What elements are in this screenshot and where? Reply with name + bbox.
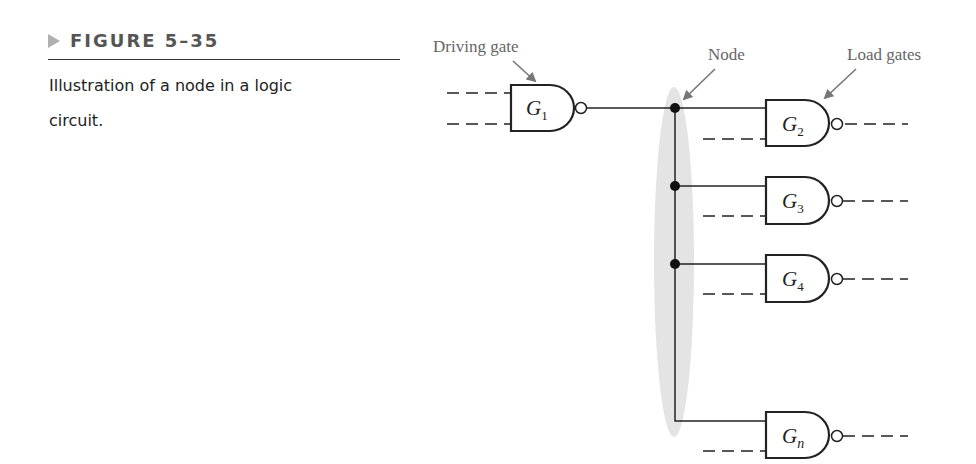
load-gate-gn: Gn [703, 412, 908, 458]
label-load-gates: Load gates [847, 45, 921, 64]
junction-dot-icon [670, 103, 680, 113]
inverter-bubble-icon [832, 431, 843, 442]
label-driving-gate: Driving gate [433, 37, 518, 56]
load-gate-g4: G4 [703, 255, 908, 302]
inverter-bubble-icon [832, 119, 843, 130]
arrow-node [684, 69, 715, 99]
inverter-bubble-icon [832, 196, 843, 207]
label-node: Node [708, 45, 745, 64]
nand-gate-icon [766, 100, 829, 146]
logic-circuit-diagram: Driving gate Node Load gates G1 G2 G3 [0, 0, 976, 464]
load-gate-g3: G3 [703, 177, 908, 224]
arrow-load-gates [825, 69, 856, 98]
inverter-bubble-icon [832, 274, 843, 285]
inverter-bubble-icon [576, 103, 587, 114]
junction-dot-icon [670, 259, 680, 269]
load-gate-g2: G2 [703, 100, 908, 146]
driving-gate-g1: G1 [447, 85, 587, 131]
arrow-driving-gate [513, 61, 535, 81]
nand-gate-icon [766, 412, 829, 458]
junction-dot-icon [670, 181, 680, 191]
